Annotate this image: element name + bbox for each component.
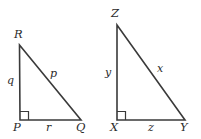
triangle-xyz-outline <box>117 25 185 120</box>
vertex-label-z: Z <box>111 8 119 20</box>
right-angle-marker-x <box>117 112 126 121</box>
side-label-x: x <box>157 63 163 74</box>
diagram-canvas: R P Q q p r Z X Y y x z <box>0 0 201 139</box>
triangle-pqr <box>20 45 82 120</box>
vertex-label-x: X <box>110 122 118 134</box>
vertex-label-y: Y <box>180 122 188 134</box>
side-label-r: r <box>46 122 51 133</box>
vertex-label-r: R <box>14 29 23 41</box>
triangle-pqr-outline <box>20 45 82 120</box>
side-label-p: p <box>50 68 57 79</box>
side-label-y: y <box>105 67 111 78</box>
triangles-figure <box>0 0 201 139</box>
right-angle-marker-p <box>20 112 29 121</box>
triangle-xyz <box>117 25 185 120</box>
vertex-label-p: P <box>13 122 21 134</box>
side-label-z: z <box>148 122 154 133</box>
vertex-label-q: Q <box>76 122 85 134</box>
side-label-q: q <box>7 75 14 86</box>
